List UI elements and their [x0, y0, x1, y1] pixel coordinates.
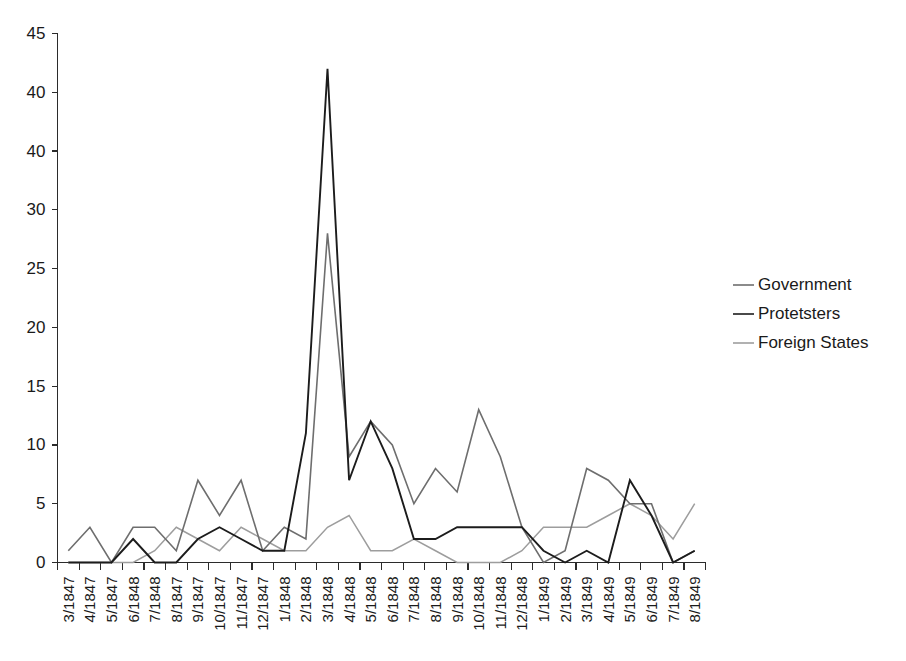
- y-tick-label: 5: [36, 494, 45, 513]
- legend-label: Government: [758, 275, 852, 294]
- x-tick-label: 1/1849: [535, 577, 552, 623]
- y-tick-label: 25: [27, 259, 46, 278]
- x-tick-label: 4/1848: [341, 577, 358, 623]
- x-tick-label: 11/1848: [492, 577, 509, 630]
- x-tick-label: 8/1847: [168, 577, 185, 623]
- x-tick-label: 7/1849: [665, 577, 682, 623]
- series-lines: [68, 69, 694, 563]
- x-tick-label: 1/1848: [276, 577, 293, 623]
- series-line-government: [68, 233, 694, 562]
- x-tick-label: 8/1848: [427, 577, 444, 623]
- legend-label: Protetsters: [758, 304, 840, 323]
- x-tick-label: 10/1848: [470, 577, 487, 631]
- chart-canvas: 454040302520151050 3/18474/18475/18476/1…: [0, 0, 906, 661]
- y-tick-label: 30: [27, 200, 46, 219]
- x-tick-label: 10/1847: [211, 577, 228, 631]
- x-tick-label: 12/1847: [254, 577, 271, 631]
- x-axis: 3/18474/18475/18476/18487/18488/18479/18…: [58, 563, 706, 631]
- x-tick-label: 3/1849: [578, 577, 595, 623]
- x-tick-label: 2/1849: [557, 577, 574, 623]
- line-chart-figure: 454040302520151050 3/18474/18475/18476/1…: [0, 0, 906, 661]
- legend-label: Foreign States: [758, 333, 869, 352]
- x-tick-label: 6/1848: [384, 577, 401, 623]
- y-tick-label: 40: [27, 83, 46, 102]
- x-tick-label: 4/1849: [600, 577, 617, 623]
- x-tick-label: 6/1848: [125, 577, 142, 623]
- series-line-protetsters: [68, 69, 694, 563]
- x-tick-label: 12/1848: [513, 577, 530, 631]
- x-tick-label: 9/1847: [189, 577, 206, 623]
- y-tick-label: 0: [36, 553, 45, 572]
- y-tick-label: 45: [27, 24, 46, 43]
- chart-legend: GovernmentProtetstersForeign States: [733, 275, 869, 352]
- x-tick-label: 8/1849: [686, 577, 703, 623]
- x-tick-label: 5/1849: [621, 577, 638, 623]
- x-tick-label: 7/1848: [146, 577, 163, 623]
- x-tick-label: 5/1847: [103, 577, 120, 623]
- x-tick-label: 3/1847: [60, 577, 77, 623]
- x-tick-label: 11/1847: [233, 577, 250, 630]
- y-tick-label: 15: [27, 377, 46, 396]
- x-tick-label: 7/1848: [405, 577, 422, 623]
- y-tick-label: 10: [27, 435, 46, 454]
- series-line-foreign-states: [68, 504, 694, 563]
- x-tick-label: 9/1848: [449, 577, 466, 623]
- x-tick-label: 5/1848: [362, 577, 379, 623]
- y-tick-label: 20: [27, 318, 46, 337]
- y-axis: 454040302520151050: [27, 24, 58, 572]
- x-tick-label: 6/1849: [643, 577, 660, 623]
- x-tick-label: 4/1847: [81, 577, 98, 623]
- x-tick-label: 2/1848: [297, 577, 314, 623]
- y-tick-label: 40: [27, 142, 46, 161]
- x-tick-label: 3/1848: [319, 577, 336, 623]
